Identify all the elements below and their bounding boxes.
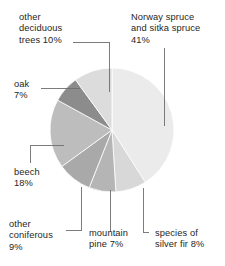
pie-label-other-coniferous: other coniferous 9% — [9, 219, 73, 253]
pie-label-oak: oak 7% — [14, 79, 54, 102]
pie-label-species-of-silver-fir: species of silver fir 8% — [155, 228, 223, 251]
pie-label-other-deciduous-trees: other deciduous trees 10% — [19, 12, 107, 46]
pie-label-mountain-pine: mountain pine 7% — [89, 228, 137, 251]
pie-chart-figure: other deciduous trees 10% Norway spruce … — [0, 0, 225, 266]
leader-line-species-of-silver-fir — [143, 188, 149, 232]
pie-label-beech: beech 18% — [14, 167, 66, 190]
pie-label-norway-sitka-spruce: Norway spruce and sitka spruce 41% — [131, 12, 223, 46]
